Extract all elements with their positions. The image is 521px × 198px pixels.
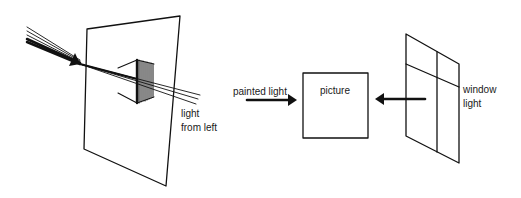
transparent-plane <box>84 16 180 186</box>
diagram-canvas: light from left painted light picture wi… <box>0 0 521 198</box>
picture-label: picture <box>320 85 350 96</box>
picture-box <box>303 73 368 138</box>
light-from-left-label-line1: light <box>181 108 200 119</box>
center-panel: painted light picture <box>233 73 368 138</box>
painted-light-label: painted light <box>233 86 287 97</box>
left-panel: light from left <box>27 16 217 186</box>
prism-block <box>118 60 154 103</box>
window-light-label-line2: light <box>463 98 482 109</box>
incoming-beam <box>27 27 80 64</box>
window-light-arrow-icon <box>375 93 425 105</box>
light-from-left-label-line2: from left <box>181 122 217 133</box>
right-panel: window light <box>375 34 497 163</box>
refracted-beam <box>80 64 200 104</box>
window-light-label-line1: window <box>462 84 497 95</box>
